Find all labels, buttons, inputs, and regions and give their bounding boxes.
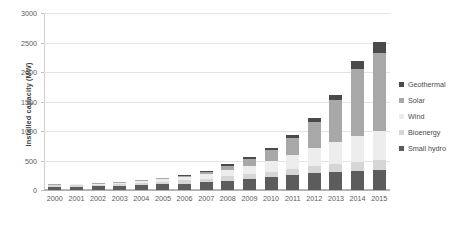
bar-segment	[351, 69, 364, 136]
bar-segment	[373, 53, 386, 131]
legend-swatch-icon	[399, 146, 404, 151]
bar-group[interactable]	[92, 183, 105, 190]
legend-item[interactable]: Solar	[399, 92, 446, 108]
bar-segment	[308, 148, 321, 166]
bar-segment	[70, 187, 83, 190]
bar-group[interactable]	[243, 157, 256, 190]
chart-legend: GeothermalSolarWindBioenergySmall hydro	[399, 76, 446, 156]
y-axis-tick-label: 1500	[0, 97, 37, 106]
legend-label: Bioenergy	[408, 128, 440, 137]
y-axis-tick-label: 1000	[0, 127, 37, 136]
y-axis-tick-mark	[41, 43, 44, 44]
bar-segment	[265, 161, 278, 172]
bar-group[interactable]	[286, 135, 299, 190]
stacked-bar-chart: Installed capacity (MW) 0500100015002000…	[0, 0, 456, 226]
legend-item[interactable]: Wind	[399, 108, 446, 124]
bar-segment	[286, 155, 299, 169]
bar-group[interactable]	[308, 118, 321, 190]
bar-segment	[113, 186, 126, 190]
y-axis-tick-mark	[41, 190, 44, 191]
bar-segment	[308, 173, 321, 190]
bar-segment	[286, 169, 299, 176]
legend-label: Wind	[408, 112, 424, 121]
bar-segment	[329, 100, 342, 141]
legend-swatch-icon	[399, 130, 404, 135]
y-axis-tick-mark	[41, 161, 44, 162]
bar-segment	[373, 160, 386, 169]
bar-segment	[308, 122, 321, 149]
bar-group[interactable]	[351, 61, 364, 190]
legend-swatch-icon	[399, 98, 404, 103]
y-axis-tick-label: 3000	[0, 9, 37, 18]
legend-label: Small hydro	[408, 144, 446, 153]
bar-group[interactable]	[48, 184, 61, 190]
legend-item[interactable]: Geothermal	[399, 76, 446, 92]
bar-segment	[265, 150, 278, 161]
bar-group[interactable]	[135, 180, 148, 190]
bar-group[interactable]	[178, 175, 191, 190]
legend-swatch-icon	[399, 114, 404, 119]
legend-item[interactable]: Bioenergy	[399, 124, 446, 140]
y-axis-tick-mark	[41, 13, 44, 14]
bar-segment	[243, 159, 256, 166]
legend-swatch-icon	[399, 82, 404, 87]
bar-segment	[308, 166, 321, 173]
bar-group[interactable]	[221, 164, 234, 190]
y-axis-tick-label: 500	[0, 156, 37, 165]
gridline	[44, 190, 390, 191]
bar-segment	[200, 182, 213, 190]
bar-segment	[373, 131, 386, 161]
y-axis-tick-mark	[41, 102, 44, 103]
bar-segment	[156, 184, 169, 190]
plot-area	[44, 13, 390, 190]
bar-group[interactable]	[156, 178, 169, 190]
bar-segment	[178, 184, 191, 190]
x-axis-tick-label: 2015	[362, 194, 396, 203]
bar-group[interactable]	[329, 95, 342, 190]
bar-segment	[329, 164, 342, 172]
bar-segment	[286, 138, 299, 155]
bar-group[interactable]	[373, 42, 386, 190]
bar-segment	[329, 172, 342, 190]
y-axis-tick-mark	[41, 131, 44, 132]
bars-layer	[44, 13, 390, 190]
bar-group[interactable]	[113, 182, 126, 190]
bar-segment	[373, 42, 386, 53]
bar-segment	[221, 181, 234, 190]
bar-segment	[351, 61, 364, 69]
bar-segment	[351, 171, 364, 190]
bar-segment	[286, 175, 299, 190]
y-axis-tick-mark	[41, 72, 44, 73]
bar-segment	[135, 185, 148, 190]
bar-group[interactable]	[70, 184, 83, 190]
bar-segment	[351, 162, 364, 171]
bar-segment	[243, 179, 256, 190]
y-axis-tick-label: 0	[0, 186, 37, 195]
legend-label: Geothermal	[408, 80, 446, 89]
y-axis-tick-label: 2500	[0, 38, 37, 47]
bar-group[interactable]	[265, 148, 278, 190]
legend-item[interactable]: Small hydro	[399, 140, 446, 156]
bar-segment	[329, 142, 342, 164]
y-axis-tick-label: 2000	[0, 68, 37, 77]
bar-segment	[351, 136, 364, 162]
bar-segment	[373, 170, 386, 190]
bar-segment	[92, 186, 105, 190]
bar-segment	[243, 166, 256, 174]
bar-segment	[48, 187, 61, 190]
bar-segment	[265, 177, 278, 190]
legend-label: Solar	[408, 96, 425, 105]
bar-group[interactable]	[200, 171, 213, 190]
